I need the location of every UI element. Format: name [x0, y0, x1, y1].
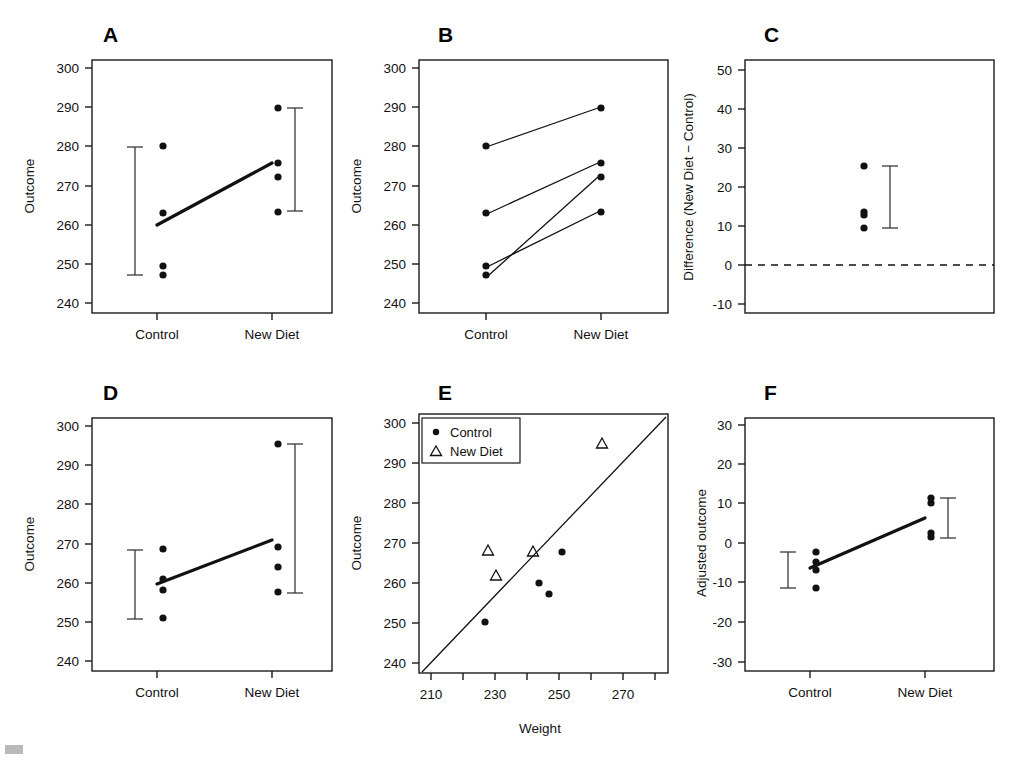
panel-e: E 240 250 260 270 280 290 300 Outcome: [349, 381, 668, 736]
panel-a-mean-line: [157, 163, 272, 225]
panel-d-ytick-280: 280: [56, 497, 79, 512]
panel-a-ytick-260: 260: [56, 218, 79, 233]
panel-a-y-axis: 240 250 260 270 280 290 300: [56, 61, 92, 311]
panel-a-error-bar-newdiet: [287, 108, 303, 211]
multi-panel-figure: A 240 250 260 270 280 290 300 Outcome: [0, 0, 1010, 763]
panel-b-ytick-250: 250: [383, 257, 406, 272]
panel-d-xtick-control: Control: [135, 685, 179, 700]
panel-d: D 240 250 260 270 280 290 300 Outcome: [22, 381, 332, 700]
panel-c-y-axis-title: Difference (New Diet − Control): [681, 93, 696, 281]
panel-e-xtick-230: 230: [484, 687, 507, 702]
panel-a-ytick-240: 240: [56, 296, 79, 311]
panel-b-xtick-control: Control: [464, 327, 508, 342]
panel-b-ytick-270: 270: [383, 179, 406, 194]
panel-d-xtick-newdiet: New Diet: [245, 685, 300, 700]
panel-f-ytick-neg10: -10: [712, 575, 732, 590]
panel-b-ytick-290: 290: [383, 100, 406, 115]
panel-a-ytick-280: 280: [56, 139, 79, 154]
panel-d-x-axis: Control New Diet: [135, 671, 299, 700]
panel-e-xtick-250: 250: [548, 687, 571, 702]
panel-e-legend-label-control: Control: [450, 425, 492, 440]
panel-d-ytick-250: 250: [56, 615, 79, 630]
panel-a-ytick-270: 270: [56, 179, 79, 194]
panel-b-ytick-300: 300: [383, 61, 406, 76]
panel-c-ytick-0: 0: [724, 258, 732, 273]
panel-b-y-axis-title: Outcome: [349, 159, 364, 214]
panel-e-ytick-270: 270: [383, 536, 406, 551]
panel-a-error-bar-control: [127, 147, 143, 275]
panel-b-pair-lines: [489, 108, 598, 275]
panel-e-legend: Control New Diet: [422, 418, 520, 463]
panel-c: C -10 0 10 20 30 40 50 Difference (New D…: [681, 23, 994, 313]
panel-f-ytick-neg20: -20: [712, 615, 732, 630]
panel-f-xtick-newdiet: New Diet: [898, 685, 953, 700]
panel-b: B 240 250 260 270 280 290 300 Outcome: [349, 23, 668, 342]
panel-e-y-axis-title: Outcome: [349, 516, 364, 571]
panel-f-mean-line: [810, 518, 925, 568]
page-scan-artifact: [5, 745, 23, 754]
panel-d-ytick-290: 290: [56, 458, 79, 473]
panel-e-xtick-210: 210: [420, 687, 443, 702]
panel-d-ytick-270: 270: [56, 537, 79, 552]
panel-a-points-control: [159, 142, 166, 278]
panel-label-a: A: [103, 23, 118, 46]
panel-c-y-axis: -10 0 10 20 30 40 50: [712, 63, 745, 312]
panel-a-xtick-newdiet: New Diet: [245, 327, 300, 342]
panel-f-ytick-0: 0: [724, 536, 732, 551]
panel-f-y-axis-title: Adjusted outcome: [694, 489, 709, 597]
panel-f-error-bar-control: [780, 552, 796, 588]
panel-f-ytick-neg30: -30: [712, 655, 732, 670]
panel-c-ytick-20: 20: [717, 180, 732, 195]
panel-c-error-bar: [882, 166, 898, 228]
panel-e-x-axis-title: Weight: [519, 721, 561, 736]
panel-e-ytick-280: 280: [383, 496, 406, 511]
panel-d-ytick-300: 300: [56, 419, 79, 434]
panel-c-points: [860, 162, 867, 231]
panel-d-ytick-260: 260: [56, 576, 79, 591]
panel-c-ytick-neg10: -10: [712, 297, 732, 312]
panel-b-points-newdiet: [597, 104, 604, 215]
panel-d-plot-frame: [92, 418, 332, 671]
panel-f-points-control: [812, 548, 819, 591]
panel-label-b: B: [438, 23, 453, 46]
panel-b-ytick-260: 260: [383, 218, 406, 233]
panel-e-ytick-260: 260: [383, 576, 406, 591]
panel-d-mean-line: [157, 540, 272, 584]
panel-f-y-axis: -30 -20 -10 0 10 20 30: [712, 418, 745, 670]
panel-a-xtick-control: Control: [135, 327, 179, 342]
panel-e-y-axis: 240 250 260 270 280 290 300: [383, 416, 419, 671]
panel-label-c: C: [764, 23, 779, 46]
panel-c-plot-frame: [745, 60, 994, 313]
panel-b-plot-frame: [419, 60, 668, 313]
panel-a-ytick-300: 300: [56, 61, 79, 76]
panel-label-d: D: [103, 381, 118, 404]
panel-e-ytick-290: 290: [383, 456, 406, 471]
panel-f-plot-frame: [745, 418, 994, 671]
panel-c-ytick-30: 30: [717, 141, 732, 156]
panel-d-error-bar-control: [127, 550, 143, 619]
panel-c-ytick-40: 40: [717, 102, 732, 117]
panel-c-ytick-10: 10: [717, 219, 732, 234]
panel-e-ytick-250: 250: [383, 616, 406, 631]
panel-b-points-control: [482, 142, 489, 278]
panel-a-ytick-290: 290: [56, 100, 79, 115]
panel-f-xtick-control: Control: [788, 685, 832, 700]
panel-d-y-axis: 240 250 260 270 280 290 300: [56, 419, 92, 669]
panel-e-ytick-240: 240: [383, 656, 406, 671]
panel-b-ytick-240: 240: [383, 296, 406, 311]
figure-canvas: A 240 250 260 270 280 290 300 Outcome: [0, 0, 1010, 763]
panel-b-x-axis: Control New Diet: [464, 313, 628, 342]
panel-f-ytick-10: 10: [717, 496, 732, 511]
panel-e-xtick-270: 270: [612, 687, 635, 702]
panel-e-ytick-300: 300: [383, 416, 406, 431]
panel-d-error-bar-newdiet: [287, 444, 303, 593]
panel-e-legend-label-newdiet: New Diet: [450, 444, 503, 459]
panel-a-points-newdiet: [274, 104, 281, 215]
panel-a: A 240 250 260 270 280 290 300 Outcome: [22, 23, 332, 342]
panel-e-points-control: [481, 548, 565, 625]
panel-f-error-bar-newdiet: [940, 498, 956, 538]
panel-d-ytick-240: 240: [56, 654, 79, 669]
panel-b-ytick-280: 280: [383, 139, 406, 154]
panel-a-y-axis-title: Outcome: [22, 159, 37, 214]
panel-d-points-newdiet: [274, 440, 281, 595]
